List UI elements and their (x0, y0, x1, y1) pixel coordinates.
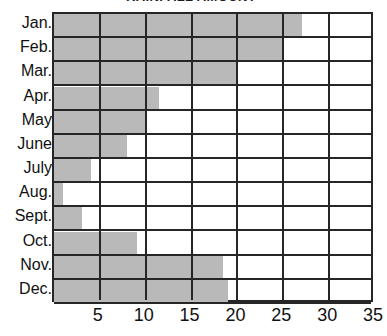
bar-aug (54, 183, 63, 205)
plot-area (52, 12, 373, 302)
chart-row-aug (54, 183, 371, 207)
chart-row-feb (54, 38, 371, 62)
chart-row-dec (54, 280, 371, 304)
y-axis-label-apr: Apr. (0, 87, 52, 105)
bar-june (54, 135, 127, 157)
chart-row-sept (54, 207, 371, 231)
gridline-10 (145, 14, 147, 300)
chart-row-july (54, 159, 371, 183)
chart-row-nov (54, 256, 371, 280)
chart-row-apr (54, 87, 371, 111)
chart-title: RAINFALL AMOUNT (0, 0, 382, 4)
plot-inner (54, 14, 371, 300)
x-axis-tick-35: 35 (350, 305, 387, 326)
bar-july (54, 159, 91, 181)
bar-jan (54, 14, 302, 36)
y-axis-label-nov: Nov. (0, 256, 52, 274)
gridline-5 (99, 14, 101, 300)
x-axis-tick-25: 25 (258, 305, 304, 326)
y-axis-label-mar: Mar. (0, 62, 52, 80)
x-axis-tick-20: 20 (212, 305, 258, 326)
chart-row-jan (54, 14, 371, 38)
bar-sept (54, 207, 82, 229)
chart-row-oct (54, 232, 371, 256)
bar-feb (54, 38, 283, 60)
bar-nov (54, 256, 223, 278)
chart-row-june (54, 135, 371, 159)
y-axis-label-may: May (0, 111, 52, 129)
y-axis-label-sept: Sept. (0, 207, 52, 225)
gridline-25 (282, 14, 284, 300)
y-axis-label-jan: Jan. (0, 14, 52, 32)
x-axis-tick-5: 5 (75, 305, 121, 326)
y-axis-label-july: July (0, 159, 52, 177)
bar-oct (54, 232, 137, 254)
y-axis-label-feb: Feb. (0, 38, 52, 56)
y-axis-label-june: June (0, 135, 52, 153)
bar-dec (54, 280, 228, 302)
gridline-30 (328, 14, 330, 300)
x-axis-tick-30: 30 (304, 305, 350, 326)
x-axis-tick-15: 15 (167, 305, 213, 326)
gridline-15 (191, 14, 193, 300)
x-axis-tick-10: 10 (121, 305, 167, 326)
bar-apr (54, 87, 159, 109)
y-axis-label-oct: Oct. (0, 232, 52, 250)
y-axis-label-dec: Dec. (0, 280, 52, 298)
gridline-20 (236, 14, 238, 300)
chart-row-mar (54, 62, 371, 86)
y-axis-label-aug: Aug. (0, 183, 52, 201)
chart-row-may (54, 111, 371, 135)
x-axis-labels: 5101520253035 (0, 303, 382, 336)
